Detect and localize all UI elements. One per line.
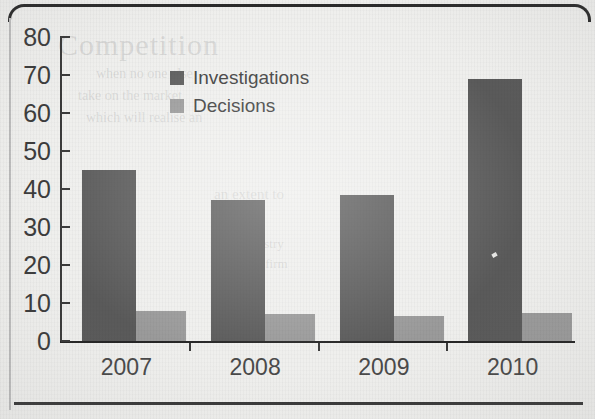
x-tick-mark <box>189 343 191 351</box>
y-tick-label: 40 <box>5 175 51 204</box>
x-tick-mark <box>446 343 448 351</box>
chart-legend: InvestigationsDecisions <box>170 66 309 122</box>
y-tick-label: 70 <box>5 61 51 90</box>
bar-chart: 01020304050607080 2007200820092010 <box>0 0 595 419</box>
bar-investigations <box>211 200 265 341</box>
scanned-page: Competition when no one else take on the… <box>0 0 595 419</box>
legend-item: Decisions <box>170 94 309 118</box>
x-tick-label: 2010 <box>487 354 538 381</box>
y-tick-label: 20 <box>5 251 51 280</box>
x-tick-label: 2008 <box>230 354 281 381</box>
y-tick-mark <box>61 302 70 304</box>
bar-decisions <box>265 314 315 341</box>
y-tick-mark <box>61 36 70 38</box>
bar-investigations <box>468 79 522 341</box>
footer-divider <box>14 402 583 405</box>
y-tick-mark <box>61 188 70 190</box>
y-tick-label: 60 <box>5 99 51 128</box>
y-tick-label: 50 <box>5 137 51 166</box>
bar-investigations <box>82 170 136 341</box>
y-tick-mark <box>61 150 70 152</box>
y-tick-mark <box>61 340 70 342</box>
y-tick-label: 0 <box>5 327 51 356</box>
x-tick-mark <box>318 343 320 351</box>
legend-label: Decisions <box>193 95 275 117</box>
y-tick-label: 80 <box>5 23 51 52</box>
x-tick-label: 2007 <box>101 354 152 381</box>
y-tick-mark <box>61 112 70 114</box>
y-tick-label: 30 <box>5 213 51 242</box>
legend-item: Investigations <box>170 66 309 90</box>
bar-decisions <box>136 311 186 341</box>
y-tick-mark <box>61 226 70 228</box>
legend-label: Investigations <box>193 67 309 89</box>
x-tick-label: 2009 <box>358 354 409 381</box>
legend-swatch-icon <box>170 99 184 113</box>
bar-decisions <box>394 316 444 341</box>
bar-investigations <box>340 195 394 341</box>
bar-decisions <box>522 313 572 342</box>
y-tick-mark <box>61 264 70 266</box>
y-tick-label: 10 <box>5 289 51 318</box>
y-tick-mark <box>61 74 70 76</box>
legend-swatch-icon <box>170 71 184 85</box>
